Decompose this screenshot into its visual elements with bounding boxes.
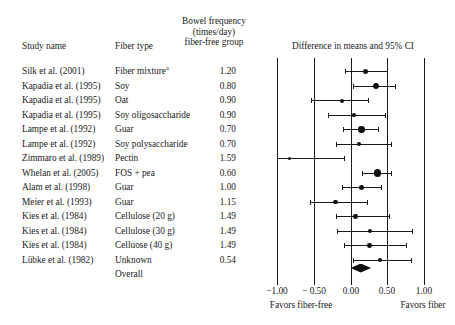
cell-study-name: Kies et al. (1984)	[22, 239, 87, 251]
axis-tick	[351, 281, 352, 285]
cell-study-name: Lampe et al. (1992)	[22, 123, 95, 135]
cell-fiber-type: Pectin	[115, 152, 138, 164]
header-fiber-type: Fiber type	[115, 41, 153, 52]
cell-bowel-frequency: 0.80	[196, 80, 236, 92]
cell-bowel-frequency: 1.59	[196, 152, 236, 164]
table-row: Meier et al. (1993)Guar1.15	[0, 196, 455, 211]
header-bowel-line-1: Bowel frequency	[172, 16, 256, 27]
cell-fiber-type: Celluose (40 g)	[115, 239, 172, 251]
cell-study-name: Kies et al. (1984)	[22, 210, 87, 222]
cell-study-name: Kapadia et al. (1995)	[22, 80, 100, 92]
table-row: Kies et al. (1984)Celluose (40 g)1.49	[0, 239, 455, 254]
cell-bowel-frequency: 0.90	[196, 94, 236, 106]
axis-tick-label: −1.00	[247, 286, 307, 297]
axis-tick	[277, 281, 278, 285]
cell-bowel-frequency: 0.60	[196, 167, 236, 179]
cell-fiber-type: Fiber mixturea	[115, 65, 169, 77]
header-bowel-frequency: Bowel frequency (times/day) fiber-free g…	[172, 16, 256, 48]
table-row: Kapadia et al. (1995)Soy0.80	[0, 80, 455, 95]
cell-bowel-frequency: 0.54	[196, 254, 236, 266]
cell-bowel-frequency: 0.90	[196, 109, 236, 121]
axis-tick-label: − 0.50	[284, 286, 344, 297]
cell-study-name: Meier et al. (1993)	[22, 196, 92, 208]
cell-bowel-frequency: 1.49	[196, 239, 236, 251]
cell-fiber-type: Unknown	[115, 254, 152, 266]
table-row: Alam et al. (1998)Guar1.00	[0, 181, 455, 196]
axis-tick-label: 0.50	[357, 286, 417, 297]
cell-study-name: Lübke et al. (1982)	[22, 254, 93, 266]
footnote-marker: a	[166, 64, 169, 71]
cell-fiber-type: Guar	[115, 196, 134, 208]
overall-row-label: Overall	[115, 268, 143, 280]
cell-bowel-frequency: 0.70	[196, 138, 236, 150]
cell-bowel-frequency: 1.00	[196, 181, 236, 193]
table-row: Lampe et al. (1992)Soy polysaccharide0.7…	[0, 138, 455, 153]
cell-study-name: Kapadia et al. (1995)	[22, 109, 100, 121]
cell-bowel-frequency: 1.49	[196, 225, 236, 237]
axis-label-favors-fiber: Favors fiber	[358, 300, 455, 311]
cell-study-name: Kapadia et al. (1995)	[22, 94, 100, 106]
cell-bowel-frequency: 1.15	[196, 196, 236, 208]
cell-study-name: Zimmaro et al. (1989)	[22, 152, 104, 164]
table-row: Kapadia et al. (1995)Soy oligosaccharide…	[0, 109, 455, 124]
table-row: Lampe et al. (1992)Guar0.70	[0, 123, 455, 138]
table-row: Silk et al. (2001)Fiber mixturea1.20	[0, 65, 455, 80]
forest-plot-figure: Study name Fiber type Bowel frequency (t…	[0, 0, 455, 325]
cell-fiber-type: Cellulose (20 g)	[115, 210, 175, 222]
header-study-name: Study name	[22, 41, 66, 52]
table-row: Whelan et al. (2005)FOS + pea0.60	[0, 167, 455, 182]
header-bowel-line-2: (times/day)	[172, 27, 256, 38]
header-difference-in-means: Difference in means and 95% CI	[258, 41, 448, 52]
cell-bowel-frequency: 1.49	[196, 210, 236, 222]
axis-tick	[387, 281, 388, 285]
table-row: Kies et al. (1984)Cellulose (30 g)1.49	[0, 225, 455, 240]
cell-fiber-type: Oat	[115, 94, 128, 106]
cell-fiber-type: Guar	[115, 123, 134, 135]
cell-study-name: Whelan et al. (2005)	[22, 167, 98, 179]
axis-tick	[424, 281, 425, 285]
cell-study-name: Silk et al. (2001)	[22, 65, 85, 77]
cell-fiber-type: Soy polysaccharide	[115, 138, 188, 150]
table-row: Kies et al. (1984)Cellulose (20 g)1.49	[0, 210, 455, 225]
axis-tick	[314, 281, 315, 285]
cell-study-name: Lampe et al. (1992)	[22, 138, 95, 150]
cell-fiber-type: Soy	[115, 80, 129, 92]
axis-tick-label: 1.00	[394, 286, 454, 297]
axis-tick-label: 0.00	[321, 286, 381, 297]
header-bowel-line-3: fiber-free group	[172, 37, 256, 48]
cell-fiber-type: Cellulose (30 g)	[115, 225, 175, 237]
cell-bowel-frequency: 1.20	[196, 65, 236, 77]
axis-label-favors-fiber-free: Favors fiber-free	[236, 300, 366, 311]
cell-fiber-type: Guar	[115, 181, 134, 193]
table-row: Lübke et al. (1982)Unknown0.54	[0, 254, 455, 269]
table-row: Kapadia et al. (1995)Oat0.90	[0, 94, 455, 109]
cell-study-name: Kies et al. (1984)	[22, 225, 87, 237]
cell-fiber-type: FOS + pea	[115, 167, 155, 179]
cell-bowel-frequency: 0.70	[196, 123, 236, 135]
cell-study-name: Alam et al. (1998)	[22, 181, 90, 193]
table-row: Zimmaro et al. (1989)Pectin1.59	[0, 152, 455, 167]
cell-fiber-type: Soy oligosaccharide	[115, 109, 190, 121]
